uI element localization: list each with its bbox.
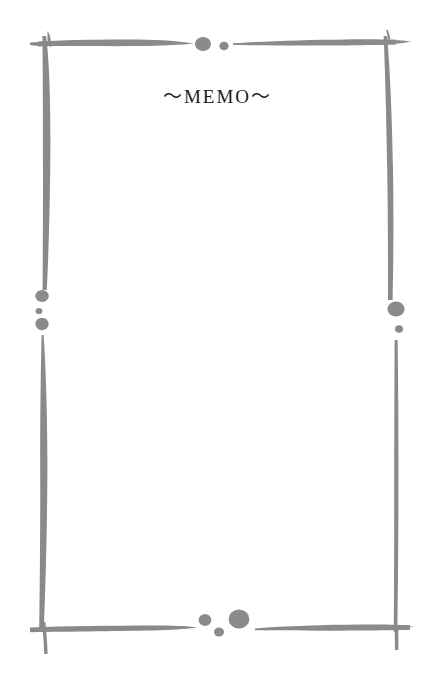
dot-left-middle-tiny	[36, 308, 43, 314]
stroke-top-right-whisker	[394, 40, 411, 44]
dot-top-large	[195, 37, 211, 51]
stroke-left-lower-vertical	[39, 335, 47, 630]
stroke-bottom-left-horizontal	[30, 626, 197, 633]
stroke-right-lower-vertical	[394, 340, 399, 632]
dot-bottom-large	[229, 609, 250, 628]
stroke-top-left-horizontal	[38, 40, 194, 47]
dot-right-large	[387, 301, 404, 316]
dot-bottom-medium	[199, 614, 212, 626]
dot-bottom-small	[214, 627, 224, 636]
stroke-right-upper-vertical	[384, 36, 394, 300]
stroke-top-right-horizontal	[233, 39, 396, 45]
memo-writing-area[interactable]	[56, 130, 376, 590]
corner-bottom-right-overshoot	[394, 626, 398, 650]
dot-top-small	[219, 42, 228, 50]
stroke-top-left-whisker	[30, 42, 41, 46]
stroke-left-upper-vertical	[42, 36, 50, 290]
stroke-bottom-right-horizontal	[255, 625, 410, 631]
page-title: ～MEMO～	[0, 86, 435, 109]
dot-right-small	[395, 325, 403, 333]
dot-left-lower-medium	[35, 318, 48, 330]
dot-left-upper-medium	[35, 290, 49, 302]
corner-bottom-left-overshoot	[42, 622, 48, 654]
memo-page: ～MEMO～	[0, 0, 435, 677]
